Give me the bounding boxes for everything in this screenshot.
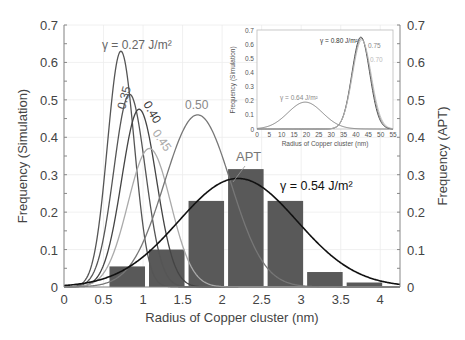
y-right-tick-label: 0 xyxy=(407,280,414,295)
inset-x-axis-label: Radius of Copper cluster (nm) xyxy=(282,140,369,148)
cluster-size-distribution-chart: 00.511.522.533.54 00.10.20.30.40.50.60.7… xyxy=(0,0,465,340)
inset-x-tick-label: 5 xyxy=(268,131,272,138)
inset-x-tick-label: 45 xyxy=(365,131,373,138)
inset-y-tick-label: 0.3 xyxy=(245,83,254,90)
y-right-tick-label: 0.5 xyxy=(407,93,425,108)
y-left-tick-label: 0.1 xyxy=(40,243,58,258)
x-tick-label: 0 xyxy=(60,292,67,307)
y-right-tick-label: 0.4 xyxy=(407,130,425,145)
inset-y-tick-label: 0.7 xyxy=(245,27,254,34)
x-tick-labels: 00.511.522.533.54 xyxy=(60,292,383,307)
x-tick-label: 1.5 xyxy=(174,292,192,307)
y-left-tick-label: 0.4 xyxy=(40,130,58,145)
y-left-tick-label: 0 xyxy=(51,280,58,295)
y-right-tick-label: 0.3 xyxy=(407,168,425,183)
inset-x-tick-label: 35 xyxy=(340,131,348,138)
inset-x-tick-label: 50 xyxy=(377,131,385,138)
inset-y-tick-label: 0 xyxy=(250,126,254,133)
y-right-tick-label: 0.2 xyxy=(407,205,425,220)
label-040: 0.40 xyxy=(140,99,164,127)
inset-y-tick-label: 0.5 xyxy=(245,55,254,62)
inset-x-tick-label: 55 xyxy=(389,131,397,138)
label-apt: APT xyxy=(236,149,261,164)
x-tick-label: 3.5 xyxy=(332,292,350,307)
y-left-tick-label: 0.6 xyxy=(40,55,58,70)
histogram-bar xyxy=(347,283,383,287)
inset-y-tick-label: 0.2 xyxy=(245,97,254,104)
inset-x-tick-label: 30 xyxy=(328,131,336,138)
label-gamma-054: γ = 0.54 J/m² xyxy=(280,179,353,193)
inset-label-gamma-064: γ = 0.64 J/m² xyxy=(280,94,319,102)
label-gamma-027: γ = 0.27 J/m² xyxy=(102,38,172,52)
x-tick-label: 2 xyxy=(219,292,226,307)
inset-x-tick-label: 25 xyxy=(315,131,323,138)
inset-y-tick-label: 0.4 xyxy=(245,69,254,76)
inset-label-070: 0.70 xyxy=(370,56,383,63)
histogram-bar xyxy=(149,250,185,287)
x-tick-label: 1 xyxy=(139,292,146,307)
inset-x-tick-label: 10 xyxy=(278,131,286,138)
y-left-tick-labels: 00.10.20.30.40.50.60.7 xyxy=(40,18,58,295)
y-left-tick-label: 0.7 xyxy=(40,18,58,33)
inset-y-axis-label: Frequency (Simulation) xyxy=(229,46,237,113)
histogram-bar xyxy=(189,201,225,287)
inset-x-tick-label: 40 xyxy=(352,131,360,138)
x-axis-label: Radius of Copper cluster (nm) xyxy=(145,310,318,325)
x-tick-label: 0.5 xyxy=(94,292,112,307)
inset-y-tick-label: 0.6 xyxy=(245,41,254,48)
y-axis-right-label: Frequency (APT) xyxy=(435,107,450,206)
inset-x-tick-label: 15 xyxy=(290,131,298,138)
y-right-tick-label: 0.1 xyxy=(407,243,425,258)
x-tick-label: 4 xyxy=(377,292,384,307)
y-left-tick-label: 0.2 xyxy=(40,205,58,220)
inset-x-tick-label: 0 xyxy=(255,131,259,138)
y-left-tick-label: 0.5 xyxy=(40,93,58,108)
y-left-tick-label: 0.3 xyxy=(40,168,58,183)
inset-label-gamma-080: γ = 0.80 J/m² xyxy=(320,37,359,45)
inset-label-075: 0.75 xyxy=(368,42,381,49)
x-tick-label: 3 xyxy=(298,292,305,307)
y-right-tick-label: 0.6 xyxy=(407,55,425,70)
y-axis-left-label: Frequency (Simulation) xyxy=(15,89,30,223)
x-tick-label: 2.5 xyxy=(253,292,271,307)
y-right-tick-labels: 00.10.20.30.40.50.60.7 xyxy=(407,18,425,295)
y-right-tick-label: 0.7 xyxy=(407,18,425,33)
label-050: 0.50 xyxy=(185,98,209,112)
inset-x-tick-label: 20 xyxy=(303,131,311,138)
inset-y-tick-labels: 00.10.20.30.40.50.60.7 xyxy=(245,27,254,133)
inset-chart: 0510152025303540455055 00.10.20.30.40.50… xyxy=(229,27,397,149)
histogram-bar xyxy=(307,272,343,287)
inset-y-tick-label: 0.1 xyxy=(245,111,254,118)
